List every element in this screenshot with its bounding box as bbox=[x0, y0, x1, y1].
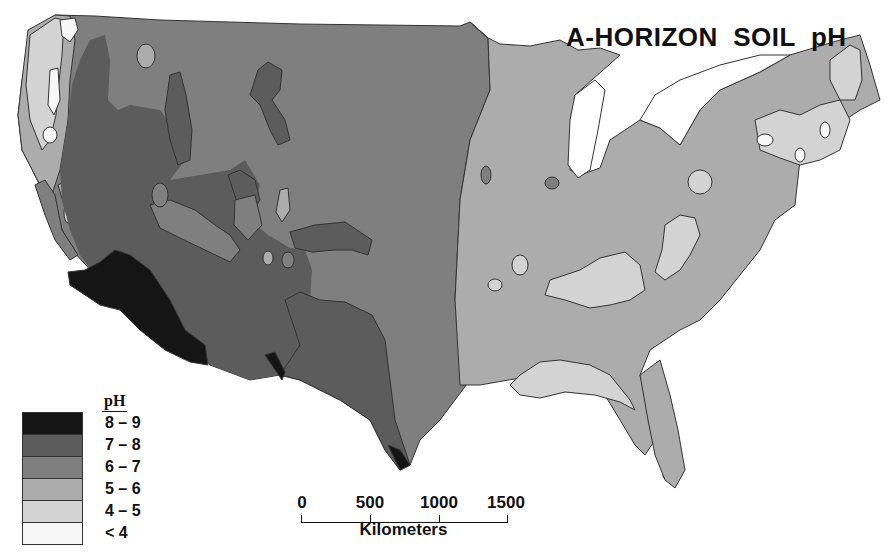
legend-label: 5 – 6 bbox=[105, 478, 141, 500]
region-ph-lt4-ny bbox=[757, 134, 773, 146]
legend-swatch-5-6 bbox=[23, 479, 82, 501]
scale-tick-label: 0 bbox=[297, 493, 306, 513]
map-title: A-HORIZON SOIL pH bbox=[566, 22, 847, 53]
legend-swatch-6-7 bbox=[23, 457, 82, 479]
legend-swatch-7-8 bbox=[23, 435, 82, 457]
scale-tick-label: 1500 bbox=[487, 493, 525, 513]
region-ph-5-6-patch-idaho bbox=[137, 44, 155, 68]
legend-label: 6 – 7 bbox=[105, 456, 141, 478]
legend-label: 4 – 5 bbox=[105, 500, 141, 522]
legend-title: pH bbox=[102, 392, 127, 412]
legend-swatches bbox=[22, 412, 83, 545]
region-ph-lt4-vt bbox=[795, 148, 805, 162]
legend-label: < 4 bbox=[105, 522, 141, 544]
region-ph-4-5-patch-pa bbox=[688, 170, 712, 194]
legend-labels: 8 – 9 7 – 8 6 – 7 5 – 6 4 – 5 < 4 bbox=[105, 412, 141, 544]
map-regions bbox=[18, 15, 880, 488]
region-ph-4-5-patch-ky bbox=[512, 255, 528, 275]
region-ph-lt4-coast-3 bbox=[43, 127, 57, 143]
legend-label: 7 – 8 bbox=[105, 434, 141, 456]
legend: pH 8 – 9 7 – 8 6 – 7 5 – 6 4 – 5 < 4 bbox=[22, 392, 142, 552]
region-ph-6-7-patch-1 bbox=[152, 183, 168, 207]
scale-tick-label: 500 bbox=[356, 493, 384, 513]
legend-label: 8 – 9 bbox=[105, 412, 141, 434]
region-ph-6-7-patch-2 bbox=[282, 252, 294, 268]
region-ph-lt4-me bbox=[820, 122, 830, 138]
scale-bar: 0 500 1000 1500 Kilometers bbox=[296, 493, 508, 553]
region-ph-6-7-il bbox=[481, 166, 491, 184]
scale-unit-label: Kilometers bbox=[296, 520, 511, 540]
legend-swatch-4-5 bbox=[23, 501, 82, 523]
region-ph-6-7-mi bbox=[545, 177, 559, 189]
region-ph-4-5-patch-ky2 bbox=[488, 279, 502, 291]
legend-swatch-8-9 bbox=[23, 413, 82, 435]
legend-swatch-lt-4 bbox=[23, 523, 82, 544]
region-ph-5-6-patch-co bbox=[263, 251, 273, 265]
scale-tick-label: 1000 bbox=[420, 493, 458, 513]
